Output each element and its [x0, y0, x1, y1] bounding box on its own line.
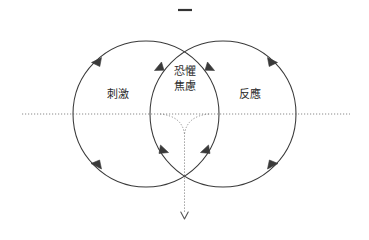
- label-anxiety: 焦慮: [162, 79, 208, 94]
- outer-left-top-arrowhead-icon: [92, 58, 102, 67]
- venn-diagram-canvas: 刺激 恐懼 焦慮 反應: [0, 0, 369, 240]
- outer-right-top-arrowhead-icon: [268, 58, 278, 67]
- label-overlap-group: 恐懼 焦慮: [162, 64, 208, 94]
- label-fear: 恐懼: [162, 64, 208, 79]
- lens-left-bottom-arrowhead-icon: [159, 145, 169, 154]
- label-response: 反應: [228, 87, 272, 102]
- vertical-axis-dotted-line-left-branch: [160, 114, 185, 213]
- axis-down-arrowhead-icon: [181, 212, 188, 219]
- vertical-axis-dotted-line-right-branch: [185, 114, 210, 134]
- label-stimulus: 刺激: [96, 87, 140, 102]
- lens-right-bottom-arrowhead-icon: [201, 145, 211, 154]
- venn-diagram-svg: [0, 0, 369, 240]
